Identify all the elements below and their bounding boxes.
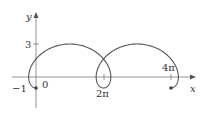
x-axis-label: x — [190, 83, 196, 94]
x-tick-label-0: 0 — [42, 79, 48, 90]
y-tick-label-3: 3 — [25, 39, 31, 50]
trochoid-chart: y x 3 −1 0 2π 4π — [0, 0, 207, 113]
x-tick-label-2pi: 2π — [96, 88, 109, 99]
y-tick-label-neg1: −1 — [12, 83, 27, 94]
start-point — [34, 86, 38, 90]
trochoid-curve — [29, 44, 179, 88]
end-point — [169, 86, 173, 90]
y-axis-label: y — [25, 11, 32, 22]
x-tick-label-4pi: 4π — [162, 62, 175, 73]
y-axis-arrow-icon — [34, 12, 39, 18]
x-axis-arrow-icon — [190, 75, 196, 80]
